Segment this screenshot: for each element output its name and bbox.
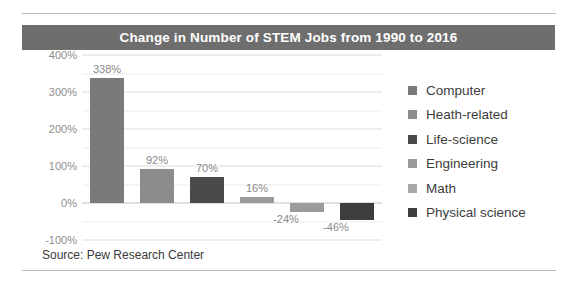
legend-swatch-icon bbox=[408, 86, 417, 95]
legend-label: Physical science bbox=[426, 205, 526, 220]
chart-title-band: Change in Number of STEM Jobs from 1990 … bbox=[22, 25, 555, 50]
legend-label: Math bbox=[426, 181, 456, 196]
y-axis-labels: 400%300%200%100%0%-100% bbox=[22, 55, 77, 240]
bottom-divider bbox=[22, 270, 556, 271]
bar bbox=[290, 203, 324, 212]
bar bbox=[340, 203, 374, 220]
legend-item: Physical science bbox=[408, 201, 573, 226]
top-divider bbox=[22, 13, 556, 14]
bar-value-label: 338% bbox=[93, 63, 121, 75]
legend-swatch-icon bbox=[408, 159, 417, 168]
legend-label: Life-science bbox=[426, 132, 498, 147]
y-axis-tick-label: 200% bbox=[22, 123, 77, 135]
legend-item: Life-science bbox=[408, 127, 573, 152]
legend-swatch-icon bbox=[408, 110, 417, 119]
legend-item: Math bbox=[408, 176, 573, 201]
chart-title: Change in Number of STEM Jobs from 1990 … bbox=[120, 30, 458, 45]
bar-series: 338%92%70%16%-24%-46% bbox=[82, 55, 382, 240]
y-axis-tick-label: 400% bbox=[22, 49, 77, 61]
bar-value-label: 16% bbox=[246, 182, 268, 194]
chart-legend: ComputerHeath-relatedLife-scienceEnginee… bbox=[408, 78, 573, 225]
legend-swatch-icon bbox=[408, 208, 417, 217]
legend-label: Heath-related bbox=[426, 107, 508, 122]
y-axis-tick-label: 100% bbox=[22, 160, 77, 172]
bar-value-label: -24% bbox=[273, 213, 299, 225]
bar bbox=[190, 177, 224, 203]
y-axis-tick-label: 300% bbox=[22, 86, 77, 98]
y-axis-tick-label: 0% bbox=[22, 197, 77, 209]
legend-item: Computer bbox=[408, 78, 573, 103]
bar-value-label: -46% bbox=[323, 221, 349, 233]
bar-value-label: 70% bbox=[196, 162, 218, 174]
bar bbox=[140, 169, 174, 203]
bar bbox=[90, 78, 124, 203]
bar bbox=[240, 197, 274, 203]
legend-swatch-icon bbox=[408, 135, 417, 144]
legend-item: Heath-related bbox=[408, 103, 573, 128]
legend-label: Computer bbox=[426, 83, 485, 98]
y-axis-tick-label: -100% bbox=[22, 234, 77, 246]
legend-swatch-icon bbox=[408, 184, 417, 193]
source-note: Source: Pew Research Center bbox=[42, 248, 204, 262]
chart-figure: Change in Number of STEM Jobs from 1990 … bbox=[0, 0, 583, 284]
legend-label: Engineering bbox=[426, 156, 498, 171]
legend-item: Engineering bbox=[408, 152, 573, 177]
bar-value-label: 92% bbox=[146, 154, 168, 166]
